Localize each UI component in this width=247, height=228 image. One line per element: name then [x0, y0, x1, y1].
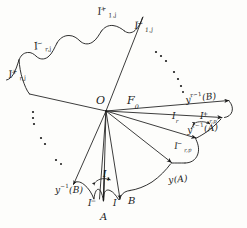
label-I-1: I1: [103, 170, 110, 179]
ray-y-A: [106, 111, 172, 163]
label-origin-O: O: [96, 95, 105, 106]
ray-B: [106, 111, 120, 199]
label-I-minus: I−: [88, 199, 97, 208]
fan-rays: [30, 17, 230, 201]
label-y-A: y(A): [168, 174, 188, 185]
label-y-inverse-B: y−1(B): [55, 186, 83, 195]
label-I-r: Ir: [172, 112, 178, 121]
label-top-mid-I-plus-1j: I+1,j: [97, 4, 116, 16]
label-I-plus-r-p: I+r,p: [200, 112, 217, 121]
ray-to-left-corner: [30, 94, 107, 111]
label-B: B: [128, 196, 136, 206]
ray-y-r1-B: [106, 101, 229, 112]
ellipsis-dots-right: [155, 51, 184, 93]
label-fan-region-F0: F0: [127, 95, 139, 106]
label-A: A: [100, 212, 107, 222]
label-I-minus-r-p: I−r,p: [174, 141, 192, 151]
ellipsis-dots-left: [32, 111, 62, 165]
label-upper-left-I-minus-rj: I−r,j: [33, 39, 51, 52]
label-I: I: [113, 199, 117, 208]
figure-root: I+1,j I−1,j I−r,j I+r,j O F0 yr−1(B) Ir …: [0, 0, 247, 228]
top-scallop-brace: [7, 18, 143, 95]
label-far-left-I-plus-rj: I+r,j: [8, 68, 26, 80]
label-top-right-I-minus-1j: I−1,j: [134, 19, 153, 31]
